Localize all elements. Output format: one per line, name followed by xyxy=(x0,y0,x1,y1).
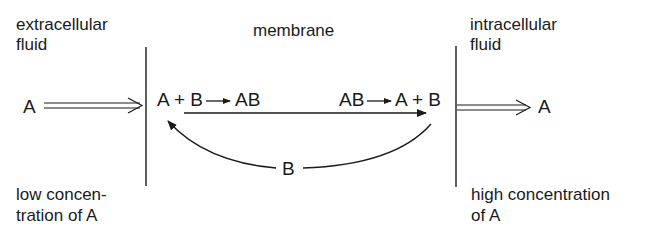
extracellular-label-line2: fluid xyxy=(16,34,47,55)
low-concentration-line2: tration of A xyxy=(16,205,97,226)
membrane-label: membrane xyxy=(253,20,334,41)
carrier-return-curve-left xyxy=(168,121,276,168)
release-reactant: AB xyxy=(339,89,364,111)
release-products: A + B xyxy=(395,89,441,111)
low-concentration-line1: low concen- xyxy=(16,184,107,205)
intracellular-label-line1: intracellular xyxy=(470,14,557,35)
exit-double-arrow xyxy=(457,100,530,115)
binding-product: AB xyxy=(235,89,260,111)
carrier-b-label: B xyxy=(282,158,295,180)
binding-reactants: A + B xyxy=(157,89,203,111)
extracellular-label-line1: extracellular xyxy=(16,14,108,35)
carrier-return-curve-right xyxy=(303,124,431,168)
species-a-inside: A xyxy=(538,96,551,118)
intracellular-label-line2: fluid xyxy=(470,34,501,55)
entry-double-arrow xyxy=(44,98,142,113)
high-concentration-line2: of A xyxy=(471,205,500,226)
species-a-outside: A xyxy=(23,96,36,118)
high-concentration-line1: high concentration xyxy=(471,184,610,205)
